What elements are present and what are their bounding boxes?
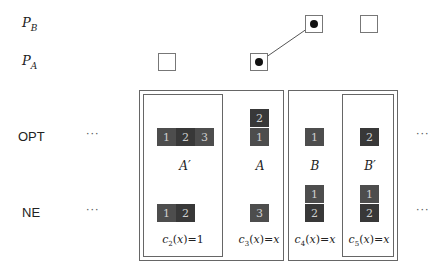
cost-sub: 4	[301, 240, 305, 248]
pb-node-dot	[310, 20, 318, 28]
opt-b-cell: 1	[305, 128, 324, 146]
cost-sub: 5	[355, 240, 359, 248]
opt-a-prime-cell-1: 1	[157, 128, 176, 146]
cost-arg: x	[363, 233, 369, 246]
ne-b-prime-cell-bottom: 2	[360, 204, 379, 222]
pb-box-2	[360, 15, 378, 33]
ne-b-prime-cell-top: 1	[360, 185, 379, 203]
pa-box-1	[158, 53, 176, 71]
cost-value: x	[273, 233, 279, 246]
cost-sub: 3	[245, 240, 249, 248]
cost-label-c5: c5(x)=x	[341, 233, 397, 248]
cost-value: x	[329, 233, 335, 246]
opt-a-prime-cell-3: 3	[195, 128, 214, 146]
cost-label-c3: c3(x)=x	[231, 233, 287, 248]
group-label-b: B	[285, 159, 345, 173]
cost-value: 1	[197, 233, 204, 246]
ne-a-cell: 3	[250, 204, 269, 222]
ne-b-cell-bottom: 2	[305, 204, 324, 222]
opt-a-cell-bottom: 1	[250, 128, 269, 146]
ne-a-prime-cell-2: 2	[176, 204, 195, 222]
cost-sub: 2	[168, 240, 172, 248]
cost-arg: x	[309, 233, 315, 246]
cost-label-c4: c4(x)=x	[287, 233, 343, 248]
pa-node-dot	[255, 58, 263, 66]
cost-arg: x	[253, 233, 259, 246]
opt-a-cell-top: 2	[250, 109, 269, 127]
group-label-b-prime: B′	[340, 159, 400, 173]
cost-label-c2: c2(x)=1	[155, 233, 211, 248]
opt-b-prime-cell: 2	[360, 128, 379, 146]
ne-b-cell-top: 1	[305, 185, 324, 203]
ne-a-prime-cell-1: 1	[157, 204, 176, 222]
cost-arg: x	[177, 233, 183, 246]
group-label-a-prime: A′	[155, 159, 215, 173]
group-label-a: A	[230, 159, 290, 173]
opt-a-prime-cell-2: 2	[176, 128, 195, 146]
cost-value: x	[383, 233, 389, 246]
